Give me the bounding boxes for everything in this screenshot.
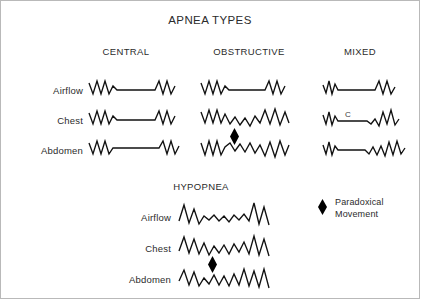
row-label-hypopnea-abdomen: Abdomen xyxy=(85,275,171,285)
waveform-mixed-airflow xyxy=(323,77,415,99)
waveform-central-airflow xyxy=(89,77,185,99)
waveform-mixed-chest xyxy=(323,107,415,131)
legend-label: Paradoxical Movement xyxy=(335,197,384,220)
waveform-central-chest xyxy=(89,107,185,129)
column-header-mixed: MIXED xyxy=(327,47,393,57)
row-label-abdomen: Abdomen xyxy=(1,146,83,156)
row-label-hypopnea-chest: Chest xyxy=(85,244,171,254)
row-label-chest: Chest xyxy=(1,116,83,126)
waveform-obstructive-chest xyxy=(201,105,301,131)
row-label-airflow: Airflow xyxy=(1,86,83,96)
page-title: APNEA TYPES xyxy=(1,15,419,27)
legend-label-line2: Movement xyxy=(335,209,384,221)
paradoxical-movement-marker-hypopnea xyxy=(207,256,218,273)
legend-label-line1: Paradoxical xyxy=(335,197,384,209)
mixed-central-marker: C xyxy=(345,111,351,119)
legend-diamond-icon xyxy=(317,199,328,219)
column-header-central: CENTRAL xyxy=(89,47,163,57)
column-header-obstructive: OBSTRUCTIVE xyxy=(201,47,297,57)
section-title-hypopnea: HYPOPNEA xyxy=(151,182,251,192)
waveform-hypopnea-airflow xyxy=(179,201,279,229)
waveform-hypopnea-chest xyxy=(179,233,279,261)
waveform-obstructive-airflow xyxy=(201,77,301,99)
row-label-hypopnea-airflow: Airflow xyxy=(85,213,171,223)
waveform-hypopnea-abdomen xyxy=(179,265,279,293)
waveform-mixed-abdomen xyxy=(323,137,415,161)
waveform-central-abdomen xyxy=(89,137,185,159)
waveform-obstructive-abdomen xyxy=(201,137,301,163)
paradoxical-movement-marker-obstructive xyxy=(229,128,240,145)
apnea-types-figure: APNEA TYPES CENTRAL OBSTRUCTIVE MIXED Ai… xyxy=(0,0,420,299)
